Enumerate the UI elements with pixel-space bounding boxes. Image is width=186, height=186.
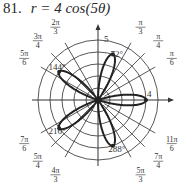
angle-label-num: 5π: [34, 152, 42, 161]
angle-label-den: 6: [170, 144, 174, 153]
petal-angle-label: 216°: [49, 126, 67, 136]
petal-angle-label: 144°: [49, 62, 67, 72]
angle-label-num: 5π: [20, 49, 28, 58]
angle-label-den: 4: [36, 161, 40, 170]
angle-label-num: π: [156, 32, 160, 41]
angle-label-den: 6: [22, 58, 26, 67]
angle-label-den: 4: [36, 41, 40, 50]
radius-label-4: 4: [147, 89, 152, 99]
petal-angle-label: 72°: [111, 49, 124, 59]
angle-label-den: 4: [156, 41, 160, 50]
angle-label-den: 3: [53, 175, 57, 184]
angle-label-num: 4π: [51, 166, 59, 175]
angle-label-num: π: [170, 49, 174, 58]
angle-label-den: 3: [139, 175, 143, 184]
angle-label-num: 7π: [154, 152, 162, 161]
angle-label-num: 3π: [34, 32, 42, 41]
angle-label-num: 7π: [20, 135, 28, 144]
angle-label-num: π: [139, 18, 143, 27]
angle-label-den: 3: [53, 27, 57, 36]
angle-label-den: 3: [139, 27, 143, 36]
petal-angle-label: 288°: [108, 144, 126, 154]
angle-label-num: 2π: [51, 18, 59, 27]
polar-plot: π3π4π62π33π45π67π65π44π35π37π411π672°144…: [0, 0, 186, 186]
angle-label-den: 4: [156, 161, 160, 170]
angle-label-num: 5π: [137, 166, 145, 175]
angle-label-den: 6: [170, 58, 174, 67]
angle-label-den: 6: [22, 144, 26, 153]
angle-label-num: 11π: [166, 135, 178, 144]
radius-label-5: 5: [104, 34, 109, 44]
x-axis-arrow-icon: [168, 98, 174, 103]
y-axis-arrow-icon: [96, 24, 101, 30]
